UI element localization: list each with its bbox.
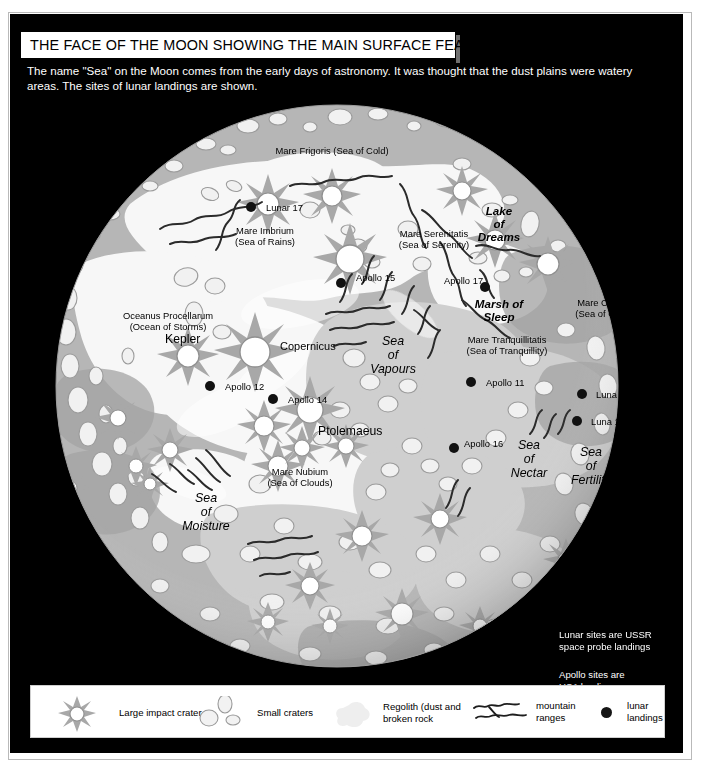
landing-marker-lunar-17[interactable] xyxy=(246,202,256,212)
legend-label-small-craters: Small craters xyxy=(257,707,313,719)
note-lunar: Lunar sites are USSRspace probe landings xyxy=(559,629,652,654)
page-subtitle: The name "Sea" on the Moon comes from th… xyxy=(27,64,657,93)
regolith-blob-icon xyxy=(331,694,379,732)
landing-label-lunar-17: Lunar 17 xyxy=(266,202,303,213)
map-label-lake-of-dreams: LakeofDreams xyxy=(478,204,521,243)
map-label-copernicus: Copernicus xyxy=(280,341,336,352)
page-title-box: THE FACE OF THE MOON SHOWING THE MAIN SU… xyxy=(20,31,456,59)
moon-illustration xyxy=(10,14,683,674)
mountain-squiggle-icon xyxy=(471,698,529,726)
moon-map: Mare Frigoris (Sea of Cold)Mare Imbrium(… xyxy=(10,14,683,674)
moon-surface xyxy=(49,105,642,674)
map-label-mare-nubium: Mare Nubium(Sea of Clouds) xyxy=(267,466,332,489)
map-label-sea-of-vapours: SeaofVapours xyxy=(370,334,416,376)
landing-marker-apollo-12[interactable] xyxy=(205,381,215,391)
small-craters-icon xyxy=(199,696,249,730)
landing-label-apollo-15: Apollo 15 xyxy=(356,272,395,283)
map-label-sea-of-nectar: SeaofNectar xyxy=(511,438,548,480)
page-root: Mare Frigoris (Sea of Cold)Mare Imbrium(… xyxy=(0,0,702,775)
landing-marker-luna-16[interactable] xyxy=(572,416,582,426)
map-label-marsh-of-sleep: Marsh ofSleep xyxy=(475,297,523,323)
landing-label-apollo-14: Apollo 14 xyxy=(288,394,327,405)
landing-label-apollo-11: Apollo 11 xyxy=(486,377,524,388)
map-label-sea-of-moisture: SeaofMoisture xyxy=(182,491,230,533)
landing-label-apollo-16: Apollo 16 xyxy=(464,438,503,449)
landing-marker-apollo-16[interactable] xyxy=(449,443,459,453)
landing-marker-apollo-14[interactable] xyxy=(268,394,278,404)
landing-label-luna-20: Luna 20 xyxy=(596,389,630,400)
landing-label-apollo-12: Apollo 12 xyxy=(225,381,264,392)
legend-panel: Large impact crater Small craters Regoli… xyxy=(30,685,665,738)
landing-marker-luna-20[interactable] xyxy=(577,389,587,399)
map-label-sea-of-fertility: SeaofFertility xyxy=(571,445,611,487)
map-label-mare-serenitatis: Mare Serenitatis(Sea of Serenity) xyxy=(399,228,469,251)
legend-label-lunar-landings: lunar landings xyxy=(627,700,663,723)
map-label-oceanus-procellarum: Oceanus Procellarum(Ocean of Storms) xyxy=(123,310,213,333)
landing-label-luna-16: Luna 16 xyxy=(591,416,625,427)
landing-dot-icon xyxy=(601,707,612,718)
map-label-mare-crisium: Mare Crisium(Sea of Crisis) xyxy=(575,297,634,320)
map-label-mare-frigoris: Mare Frigoris (Sea of Cold) xyxy=(275,145,388,156)
map-label-mare-imbrium: Mare Imbrium(Sea of Rains) xyxy=(235,225,295,248)
landing-marker-apollo-11[interactable] xyxy=(466,377,476,387)
map-label-kepler: Kepler xyxy=(165,334,200,345)
legend-label-large-impact-crater: Large impact crater xyxy=(119,707,202,719)
page-title: THE FACE OF THE MOON SHOWING THE MAIN SU… xyxy=(30,37,512,53)
legend-label-mountain-ranges: mountain ranges xyxy=(536,700,575,723)
landing-marker-apollo-15[interactable] xyxy=(336,278,346,288)
landing-label-apollo-17: Apollo 17 xyxy=(444,275,483,286)
map-label-mare-tranquillitatis: Mare Tranquillitatis(Sea of Tranquillity… xyxy=(467,334,548,357)
star-crater-icon xyxy=(49,694,105,734)
legend-label-regolith: Regolith (dust and broken rock xyxy=(383,701,461,724)
map-label-ptolemaeus: Ptolemaeus xyxy=(318,426,382,437)
